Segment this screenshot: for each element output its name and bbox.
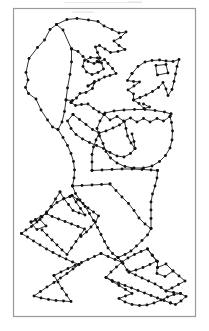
vertex-dot <box>94 46 97 49</box>
vertex-dot <box>178 275 181 278</box>
vertex-dot <box>67 203 70 206</box>
polyline-layer <box>22 19 187 306</box>
vertex-dot <box>111 168 114 171</box>
vertex-dot <box>115 266 118 269</box>
vertex-dot <box>51 126 54 129</box>
vertex-dot <box>109 51 112 54</box>
vertex-dot <box>124 288 127 291</box>
vertex-dot <box>165 290 168 293</box>
vertex-dot <box>105 130 108 133</box>
vertex-dot <box>138 217 141 220</box>
vertex-dot <box>103 25 106 28</box>
vertex-dot <box>62 136 65 139</box>
vertex-dot <box>149 263 152 266</box>
vertex-dot <box>118 284 121 287</box>
vertex-dot <box>122 262 125 265</box>
vertex-dot <box>51 239 54 242</box>
vertex-dot <box>100 233 103 236</box>
vertex-dot <box>121 168 124 171</box>
vertex-dot <box>121 196 124 199</box>
vertex-dot <box>170 121 173 124</box>
vertex-dot <box>87 60 90 63</box>
vertex-dot <box>98 132 101 135</box>
vertex-dot <box>84 214 87 217</box>
vertex-dot <box>92 146 95 149</box>
vertex-dot <box>97 215 100 218</box>
vertex-dot <box>145 94 148 97</box>
vertex-dot <box>98 79 101 82</box>
vertex-dot <box>91 73 94 76</box>
vertex-dot <box>51 215 54 218</box>
vertex-dot <box>91 184 94 187</box>
vertex-dot <box>160 286 163 289</box>
vertex-dot <box>79 199 82 202</box>
vertex-dot <box>76 198 79 201</box>
vertex-dot <box>54 198 57 201</box>
vertex-dot <box>62 300 65 303</box>
vertex-dot <box>156 297 159 300</box>
vertex-dot <box>156 169 159 172</box>
vertex-dot <box>165 88 168 91</box>
vertex-dot <box>144 108 147 111</box>
vertex-dot <box>130 142 133 145</box>
vertex-dot <box>40 215 43 218</box>
vertex-dot <box>131 303 134 306</box>
vertex-dot <box>131 72 134 75</box>
vertex-dot <box>52 251 55 254</box>
vertex-dot <box>100 62 103 65</box>
vertex-dot <box>109 183 112 186</box>
vertex-dot <box>169 147 172 150</box>
vertex-dot <box>102 68 105 71</box>
vertex-dot <box>157 86 160 89</box>
vertex-dot <box>60 271 63 274</box>
vertex-dot <box>146 304 149 307</box>
vertex-dot <box>130 250 133 253</box>
vertex-dot <box>124 253 127 256</box>
vertex-dot <box>75 97 78 100</box>
vertex-dot <box>160 299 163 302</box>
vertex-dot <box>155 64 158 67</box>
vertex-dot <box>95 144 98 147</box>
vertex-dot <box>124 301 127 304</box>
vertex-dot <box>101 169 104 172</box>
vertex-dot <box>164 275 167 278</box>
vertex-dot <box>64 220 67 223</box>
vertex-dot <box>150 294 153 297</box>
vertex-dot <box>39 290 42 293</box>
vertex-dot <box>89 56 92 59</box>
vertex-dot <box>92 211 95 214</box>
vertex-dot <box>87 258 90 261</box>
vertex-dot <box>163 299 166 302</box>
vertex-dot <box>117 50 120 53</box>
vertex-dot <box>111 280 114 283</box>
vertex-dot <box>150 201 153 204</box>
vertex-dot <box>91 169 94 172</box>
vertex-dot <box>70 300 73 303</box>
vertex-dot <box>162 120 165 123</box>
vertex-dot <box>130 287 133 290</box>
vertex-dot <box>40 297 43 300</box>
vertex-dot <box>133 209 136 212</box>
vertex-dot <box>79 92 82 95</box>
vertex-dot <box>98 61 101 64</box>
vertex-dot <box>20 232 23 235</box>
vertex-dot <box>105 150 108 153</box>
vertex-dot <box>66 87 69 90</box>
vertex-dot <box>117 256 120 259</box>
vertex-dot <box>73 169 76 172</box>
vertex-dot <box>156 117 159 120</box>
vertex-dot <box>99 120 102 123</box>
vertex-dot <box>98 111 101 114</box>
vertex-dot <box>56 244 59 247</box>
vertex-dot <box>128 271 131 274</box>
vertex-dot <box>27 79 30 82</box>
vertex-dot <box>95 139 98 142</box>
vertex-dot <box>171 88 174 91</box>
vertex-dot <box>185 295 188 298</box>
vertex-dot <box>46 234 49 237</box>
vertex-dot <box>173 80 176 83</box>
vertex-dot <box>132 99 135 102</box>
vertex-dot <box>111 252 114 255</box>
vertex-dot <box>83 59 86 62</box>
vertex-dot <box>33 295 36 298</box>
